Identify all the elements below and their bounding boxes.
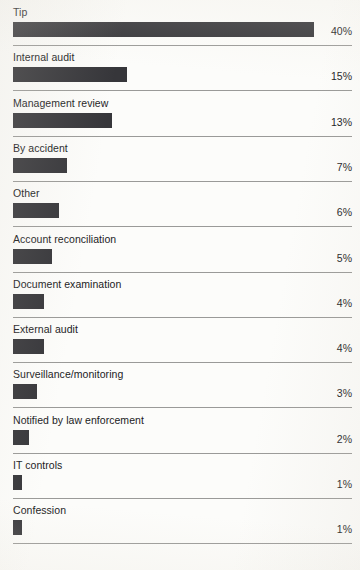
bar-value-label: 4% (337, 342, 352, 354)
bar-value-label: 40% (331, 25, 352, 37)
bar-chart: Tip40%Internal audit15%Management review… (0, 0, 360, 570)
bar-value-label: 1% (337, 523, 352, 535)
bar-value-label: 15% (331, 70, 352, 82)
bar (13, 113, 112, 128)
bar (13, 67, 127, 82)
row-separator (13, 226, 352, 227)
row-separator (13, 181, 352, 182)
bar (13, 203, 59, 218)
bar (13, 520, 22, 535)
bar (13, 22, 314, 37)
bar (13, 339, 44, 354)
bar-row-label: Document examination (13, 278, 121, 290)
bar-row-label: Notified by law enforcement (13, 414, 144, 426)
bar-row-label: Confession (13, 504, 66, 516)
bar-value-label: 3% (337, 387, 352, 399)
row-separator (13, 407, 352, 408)
bar-value-label: 4% (337, 297, 352, 309)
row-separator (13, 317, 352, 318)
row-separator (13, 543, 352, 544)
bar-value-label: 2% (337, 433, 352, 445)
bar-row-label: Other (13, 187, 40, 199)
bar-row-label: Surveillance/monitoring (13, 368, 123, 380)
row-separator (13, 498, 352, 499)
row-separator (13, 90, 352, 91)
bar-row-label: IT controls (13, 459, 62, 471)
row-separator (13, 272, 352, 273)
bar (13, 475, 22, 490)
bar-row-label: External audit (13, 323, 78, 335)
bar-value-label: 6% (337, 206, 352, 218)
bar-value-label: 1% (337, 478, 352, 490)
chart-plot-area: Tip40%Internal audit15%Management review… (0, 0, 360, 570)
bar (13, 384, 37, 399)
row-separator (13, 453, 352, 454)
bar (13, 249, 52, 264)
row-separator (13, 136, 352, 137)
bar-row-label: By accident (13, 142, 68, 154)
bar-value-label: 7% (337, 161, 352, 173)
bar-value-label: 13% (331, 116, 352, 128)
row-separator (13, 45, 352, 46)
bar-row-label: Tip (13, 6, 27, 18)
bar-row-label: Management review (13, 97, 108, 109)
bar-row-label: Account reconciliation (13, 233, 116, 245)
bar (13, 294, 44, 309)
bar-row-label: Internal audit (13, 51, 74, 63)
bar (13, 158, 67, 173)
row-separator (13, 362, 352, 363)
bar-value-label: 5% (337, 252, 352, 264)
bar (13, 430, 29, 445)
